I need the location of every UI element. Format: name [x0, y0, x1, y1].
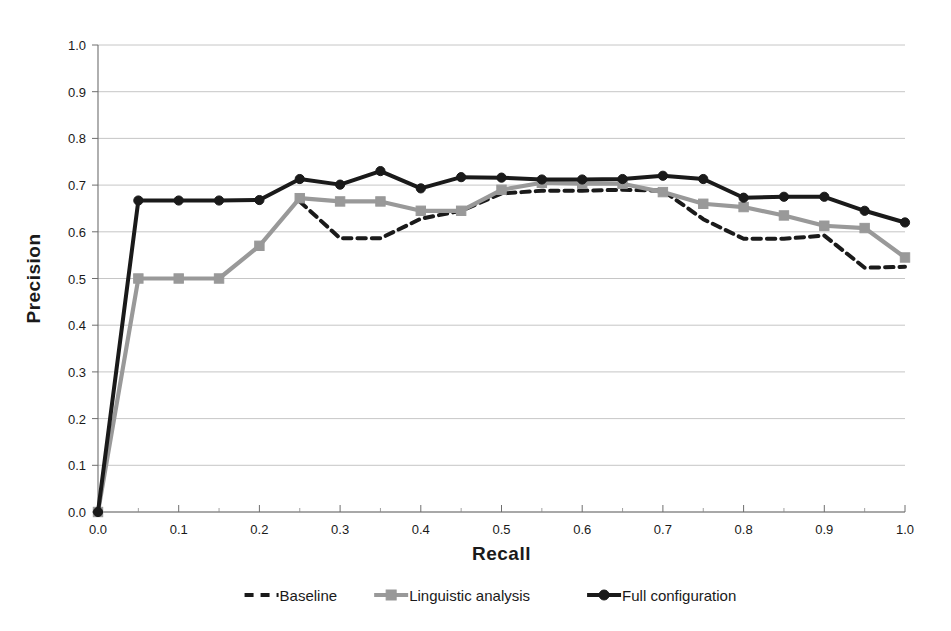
- marker-full-configuration: [457, 173, 466, 182]
- x-tick-label: 0.5: [492, 522, 510, 537]
- marker-linguistic-analysis: [456, 206, 465, 215]
- marker-linguistic-analysis: [900, 253, 909, 262]
- chart-legend: BaselineLinguistic analysisFull configur…: [245, 587, 737, 604]
- y-tick-label: 0.1: [68, 458, 86, 473]
- x-tick-label: 1.0: [896, 522, 914, 537]
- marker-linguistic-analysis: [376, 197, 385, 206]
- marker-linguistic-analysis: [335, 197, 344, 206]
- x-tick-label: 0.4: [412, 522, 430, 537]
- marker-full-configuration: [860, 206, 869, 215]
- chart-background: [0, 0, 951, 631]
- marker-full-configuration: [214, 196, 223, 205]
- marker-full-configuration: [497, 173, 506, 182]
- marker-full-configuration: [174, 196, 183, 205]
- marker-full-configuration: [376, 166, 385, 175]
- marker-full-configuration: [578, 175, 587, 184]
- legend-marker-linguistic-analysis: [386, 590, 396, 600]
- marker-linguistic-analysis: [134, 274, 143, 283]
- x-tick-label: 0.6: [573, 522, 591, 537]
- marker-linguistic-analysis: [658, 187, 667, 196]
- marker-full-configuration: [699, 174, 708, 183]
- marker-full-configuration: [618, 174, 627, 183]
- marker-linguistic-analysis: [295, 193, 304, 202]
- precision-recall-chart: 0.00.10.20.30.40.50.60.70.80.91.0 0.00.1…: [0, 0, 951, 631]
- marker-linguistic-analysis: [214, 274, 223, 283]
- marker-full-configuration: [779, 192, 788, 201]
- marker-linguistic-analysis: [739, 202, 748, 211]
- x-tick-label: 0.8: [735, 522, 753, 537]
- marker-full-configuration: [537, 175, 546, 184]
- y-tick-label: 0.2: [68, 412, 86, 427]
- x-axis-title: Recall: [472, 543, 531, 564]
- legend-label-linguistic-analysis: Linguistic analysis: [409, 587, 530, 604]
- y-tick-label: 0.8: [68, 131, 86, 146]
- marker-linguistic-analysis: [699, 199, 708, 208]
- marker-linguistic-analysis: [255, 241, 264, 250]
- legend-label-baseline: Baseline: [280, 587, 338, 604]
- marker-full-configuration: [295, 174, 304, 183]
- marker-full-configuration: [134, 196, 143, 205]
- y-tick-label: 0.3: [68, 365, 86, 380]
- marker-full-configuration: [820, 192, 829, 201]
- y-tick-label: 0.0: [68, 505, 86, 520]
- legend-label-full-configuration: Full configuration: [622, 587, 736, 604]
- marker-full-configuration: [93, 507, 102, 516]
- marker-linguistic-analysis: [820, 221, 829, 230]
- x-tick-label: 0.7: [654, 522, 672, 537]
- legend-marker-full-configuration: [599, 590, 609, 600]
- marker-full-configuration: [255, 195, 264, 204]
- y-tick-label: 0.9: [68, 85, 86, 100]
- x-tick-label: 0.2: [250, 522, 268, 537]
- y-tick-label: 1.0: [68, 38, 86, 53]
- y-tick-label: 0.5: [68, 272, 86, 287]
- marker-full-configuration: [739, 193, 748, 202]
- marker-linguistic-analysis: [174, 274, 183, 283]
- marker-full-configuration: [900, 218, 909, 227]
- y-tick-label: 0.6: [68, 225, 86, 240]
- marker-linguistic-analysis: [860, 223, 869, 232]
- chart-canvas: 0.00.10.20.30.40.50.60.70.80.91.0 0.00.1…: [0, 0, 951, 631]
- marker-linguistic-analysis: [416, 206, 425, 215]
- marker-linguistic-analysis: [497, 185, 506, 194]
- y-tick-label: 0.4: [68, 318, 86, 333]
- marker-full-configuration: [416, 184, 425, 193]
- marker-linguistic-analysis: [779, 211, 788, 220]
- y-tick-label: 0.7: [68, 178, 86, 193]
- y-axis-title: Precision: [23, 233, 44, 323]
- x-tick-label: 0.3: [331, 522, 349, 537]
- x-tick-label: 0.9: [815, 522, 833, 537]
- marker-full-configuration: [658, 171, 667, 180]
- x-tick-label: 0.0: [89, 522, 107, 537]
- x-tick-label: 0.1: [170, 522, 188, 537]
- marker-full-configuration: [336, 180, 345, 189]
